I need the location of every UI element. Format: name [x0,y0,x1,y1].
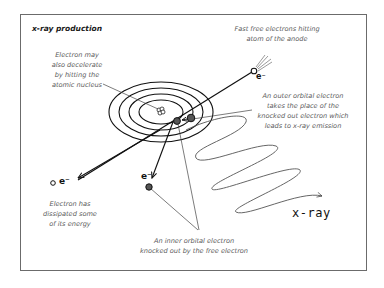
pointer-inner-b [178,124,199,230]
outer-orbital-electron [187,114,195,122]
electron-symbol-dissipated: e⁻ [59,176,70,186]
knocked-out-electron-icon [146,184,152,190]
electron-symbol-fast: e⁻ [256,72,266,81]
nucleus-icon [157,107,165,115]
dissipated-electron-icon [51,181,56,186]
pointer-inner-a [150,188,198,230]
fast-electron-icon [251,55,272,74]
inner-orbital-electron [174,118,181,125]
atom-diagram [0,0,384,288]
xray-wave [186,116,322,213]
electron-symbol-knocked: e⁻ [141,171,152,181]
